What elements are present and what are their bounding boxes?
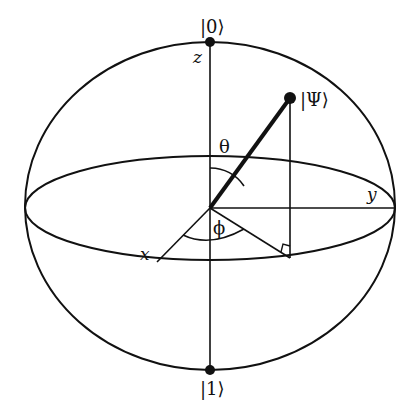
ket1-label: |1⟩ bbox=[200, 378, 225, 400]
psi-point bbox=[284, 92, 296, 104]
right-angle-marker bbox=[281, 244, 290, 252]
y-axis-label: y bbox=[366, 184, 377, 204]
theta-label: θ bbox=[219, 136, 230, 157]
south-pole-point bbox=[205, 365, 215, 375]
x-axis-label: x bbox=[140, 244, 150, 264]
psi-label: |Ψ⟩ bbox=[300, 89, 329, 111]
ket0-label: |0⟩ bbox=[200, 16, 225, 38]
z-axis-label: z bbox=[192, 47, 203, 67]
phi-label: ϕ bbox=[213, 217, 225, 238]
bloch-sphere-diagram: |0⟩ z |Ψ⟩ θ y ϕ x |1⟩ bbox=[0, 0, 415, 417]
north-pole-point bbox=[205, 37, 215, 47]
